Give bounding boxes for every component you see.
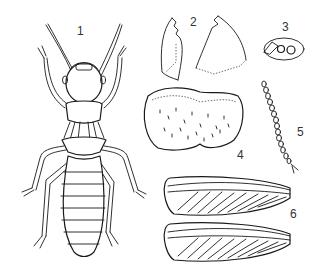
- panel-4-pronotum: [144, 88, 243, 150]
- panel-label-2: 2: [190, 16, 197, 28]
- panel-label-5: 5: [297, 126, 304, 138]
- anatomical-plate: 1 2 3 4 5 6: [0, 0, 329, 279]
- plate-drawing: [0, 0, 329, 279]
- panel-label-1: 1: [77, 25, 84, 37]
- panel-3-eye: [264, 38, 304, 60]
- panel-label-3: 3: [282, 21, 289, 33]
- panel-label-6: 6: [290, 208, 297, 220]
- panel-6-wings: [164, 177, 290, 261]
- panel-1-whole-body: [22, 24, 146, 257]
- panel-label-4: 4: [237, 149, 244, 161]
- panel-5-antenna: [262, 81, 298, 173]
- panel-2-mandibles: [161, 16, 246, 80]
